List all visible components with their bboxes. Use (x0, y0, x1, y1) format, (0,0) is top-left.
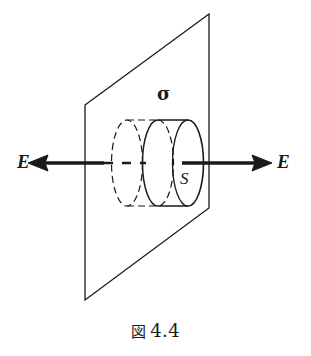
charged-plane (85, 14, 209, 300)
gauss-law-plane-diagram (0, 0, 311, 356)
field-arrow-right-head (252, 155, 272, 171)
figure-caption-number: 4.4 (150, 320, 180, 341)
figure-container: E E σ S 図4.4 (0, 0, 311, 356)
gaussian-area-label: S (180, 170, 189, 187)
field-label-left: E (17, 152, 30, 171)
field-arrow-left-head (28, 155, 48, 171)
figure-caption: 図4.4 (0, 320, 311, 341)
field-label-right: E (277, 152, 290, 171)
surface-charge-density-label: σ (157, 85, 170, 103)
figure-caption-kanji: 図 (131, 323, 147, 341)
